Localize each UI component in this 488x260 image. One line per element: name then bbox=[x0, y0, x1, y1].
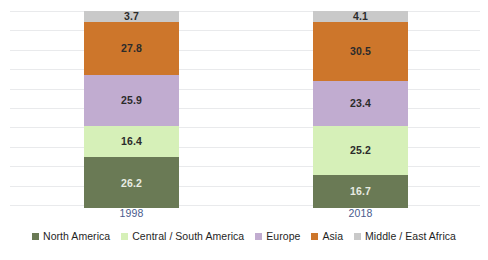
bar-segment-value: 16.4 bbox=[121, 136, 142, 147]
bar-segment[interactable]: 26.2 bbox=[84, 157, 179, 208]
bar-segment-value: 26.2 bbox=[121, 178, 142, 189]
legend-item[interactable]: Middle / East Africa bbox=[354, 230, 456, 242]
bar-segment-value: 3.7 bbox=[124, 11, 139, 22]
legend-item[interactable]: Europe bbox=[255, 230, 300, 242]
bar-segment[interactable]: 25.2 bbox=[313, 126, 408, 175]
bar-segment-value: 23.4 bbox=[350, 98, 371, 109]
bar-segment-value: 27.8 bbox=[121, 43, 142, 54]
legend-item[interactable]: Asia bbox=[311, 230, 343, 242]
category-label-1998: 1998 bbox=[84, 207, 179, 219]
legend-swatch-icon bbox=[32, 233, 39, 240]
legend-swatch-icon bbox=[311, 233, 318, 240]
bar-segment[interactable]: 30.5 bbox=[313, 22, 408, 81]
legend-swatch-icon bbox=[121, 233, 128, 240]
gridline bbox=[10, 186, 480, 187]
bar-segment[interactable]: 16.4 bbox=[84, 126, 179, 158]
legend-label: Central / South America bbox=[132, 230, 244, 242]
bar-segment-value: 4.1 bbox=[353, 11, 368, 22]
bar-segment-value: 16.7 bbox=[350, 186, 371, 197]
gridline bbox=[10, 127, 480, 128]
bar-segment[interactable]: 25.9 bbox=[84, 75, 179, 125]
legend-label: Asia bbox=[322, 230, 343, 242]
bar-segment[interactable]: 3.7 bbox=[84, 11, 179, 22]
bar-segment-value: 25.2 bbox=[350, 145, 371, 156]
bar-segment-value: 25.9 bbox=[121, 95, 142, 106]
bar-stack-2018[interactable]: 4.130.523.425.216.7 bbox=[313, 11, 408, 205]
category-label-2018: 2018 bbox=[313, 207, 408, 219]
legend-swatch-icon bbox=[255, 233, 262, 240]
gridline bbox=[10, 11, 480, 12]
legend-swatch-icon bbox=[354, 233, 361, 240]
gridline bbox=[10, 89, 480, 90]
gridline bbox=[10, 30, 480, 31]
gridline bbox=[10, 69, 480, 70]
bar-segment[interactable]: 23.4 bbox=[313, 81, 408, 126]
chart-legend: North AmericaCentral / South AmericaEuro… bbox=[0, 230, 488, 242]
bar-segment[interactable]: 16.7 bbox=[313, 175, 408, 207]
plot-area: 3.727.825.916.426.2 4.130.523.425.216.7 … bbox=[0, 0, 488, 206]
gridline bbox=[10, 50, 480, 51]
legend-label: Europe bbox=[266, 230, 300, 242]
legend-item[interactable]: Central / South America bbox=[121, 230, 244, 242]
bar-segment-value: 30.5 bbox=[350, 46, 371, 57]
gridline bbox=[10, 166, 480, 167]
gridline bbox=[10, 108, 480, 109]
legend-item[interactable]: North America bbox=[32, 230, 110, 242]
bar-segment[interactable]: 4.1 bbox=[313, 11, 408, 22]
bar-stack-1998[interactable]: 3.727.825.916.426.2 bbox=[84, 11, 179, 205]
bar-segment[interactable]: 27.8 bbox=[84, 22, 179, 76]
stacked-bar-chart: 3.727.825.916.426.2 4.130.523.425.216.7 … bbox=[0, 0, 488, 260]
gridline bbox=[10, 147, 480, 148]
legend-label: Middle / East Africa bbox=[365, 230, 456, 242]
legend-label: North America bbox=[43, 230, 110, 242]
gridline bbox=[10, 205, 480, 206]
